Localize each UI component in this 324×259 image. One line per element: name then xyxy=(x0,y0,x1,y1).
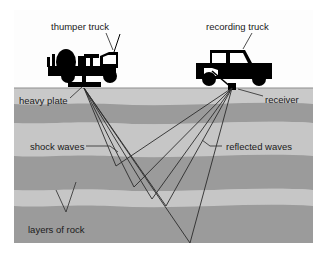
heavy-plate-post xyxy=(82,76,86,83)
label-recording-truck: recording truck xyxy=(206,21,269,32)
left-margin xyxy=(0,0,14,259)
illustration-panel xyxy=(14,10,313,243)
thumper-cab-window xyxy=(103,55,116,64)
thumper-mast-post xyxy=(90,57,93,69)
bottom-margin xyxy=(0,243,324,259)
thumper-wheel-rear xyxy=(61,69,75,83)
recording-truck-wheel-front xyxy=(252,72,266,86)
rock-layers xyxy=(14,88,313,243)
seismic-survey-figure: thumper truck recording truck heavy plat… xyxy=(0,0,324,259)
thumper-wheel-front xyxy=(103,69,117,83)
label-receiver: receiver xyxy=(265,94,299,105)
label-thumper-truck: thumper truck xyxy=(51,21,109,32)
right-margin xyxy=(313,0,324,259)
label-heavy-plate: heavy plate xyxy=(19,95,68,106)
recording-truck-wheel-rear xyxy=(202,72,216,86)
label-shock-waves: shock waves xyxy=(30,141,85,152)
thumper-stack-3 xyxy=(57,58,60,67)
thumper-stack-2 xyxy=(52,54,55,67)
rock-layer-4 xyxy=(14,155,313,191)
recording-truck-window-rear xyxy=(212,53,226,63)
top-margin xyxy=(0,0,324,10)
thumper-stack-1 xyxy=(47,57,50,67)
label-reflected-waves: reflected waves xyxy=(226,141,292,152)
thumper-mast-top xyxy=(84,54,99,58)
rock-layer-2 xyxy=(14,103,313,124)
diagram-canvas: thumper truck recording truck heavy plat… xyxy=(0,0,324,259)
label-layers-of-rock: layers of rock xyxy=(28,224,85,235)
